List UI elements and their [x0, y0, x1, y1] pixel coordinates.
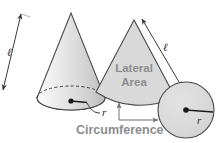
sector-slant-label: ℓ — [163, 41, 168, 53]
cone-solid: r ℓ — [3, 13, 107, 118]
net-circle-radius-label: r — [197, 114, 202, 126]
cone-radius-label: r — [102, 106, 107, 118]
cone-net-figure: r ℓ Lateral Area ℓ r Circumference — [0, 0, 221, 143]
cone-lateral-surface — [37, 13, 105, 110]
lateral-area-label-line2: Area — [121, 76, 147, 88]
geometry-diagram-svg: r ℓ Lateral Area ℓ r Circumference — [0, 0, 221, 143]
cone-apex-tick — [22, 14, 30, 17]
circumference-label: Circumference — [76, 123, 164, 137]
cone-slant-label: ℓ — [7, 46, 12, 58]
lateral-area-label-line1: Lateral — [115, 62, 153, 74]
cone-slant-dimension-line — [3, 14, 21, 90]
